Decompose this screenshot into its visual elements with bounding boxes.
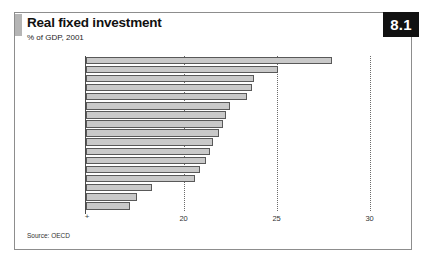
chart-subtitle: % of GDP, 2001 (27, 33, 162, 43)
title-block: Real fixed investment % of GDP, 2001 (27, 15, 162, 43)
chart-frame (14, 12, 412, 250)
figure-number-badge: 8.1 (383, 12, 419, 37)
source-note: Source: OECD (27, 232, 70, 239)
page-title: Real fixed investment (27, 15, 162, 30)
figure-panel: Real fixed investment % of GDP, 2001 8.1… (0, 0, 427, 266)
title-marker (15, 14, 22, 36)
